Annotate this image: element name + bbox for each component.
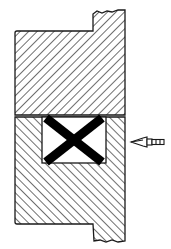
upper-block xyxy=(15,10,125,115)
pressure-arrow-icon xyxy=(131,137,164,147)
cross-section-diagram xyxy=(0,0,171,249)
seal-cavity xyxy=(42,117,106,163)
